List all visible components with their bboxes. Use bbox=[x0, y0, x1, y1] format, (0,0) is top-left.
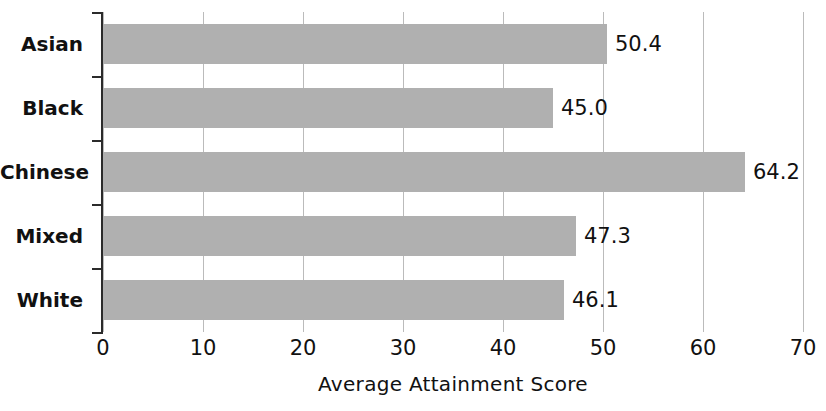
bar-white bbox=[103, 280, 564, 320]
x-tick-label-70: 70 bbox=[773, 336, 826, 360]
category-label-white: White bbox=[0, 268, 93, 332]
x-axis-labels: 0 10 20 30 40 50 60 70 bbox=[0, 336, 826, 366]
x-tick-label-0: 0 bbox=[73, 336, 133, 360]
x-tick-label-20: 20 bbox=[273, 336, 333, 360]
category-label-mixed: Mixed bbox=[0, 204, 93, 268]
bar-value-mixed: 47.3 bbox=[576, 216, 631, 256]
category-label-black: Black bbox=[0, 76, 93, 140]
bar-black bbox=[103, 88, 553, 128]
bar-row: 45.0 bbox=[103, 76, 803, 140]
gridline-70 bbox=[803, 12, 804, 332]
bar-row: 50.4 bbox=[103, 12, 803, 76]
x-axis-title: Average Attainment Score bbox=[103, 372, 803, 396]
x-tick-label-50: 50 bbox=[573, 336, 633, 360]
y-axis-tick bbox=[92, 332, 101, 334]
x-tick-label-10: 10 bbox=[173, 336, 233, 360]
x-tick-label-40: 40 bbox=[473, 336, 533, 360]
bar-row: 46.1 bbox=[103, 268, 803, 332]
y-axis-spine bbox=[101, 12, 103, 334]
bar-asian bbox=[103, 24, 607, 64]
category-label-chinese: Chinese bbox=[0, 140, 93, 204]
category-label-asian: Asian bbox=[0, 12, 93, 76]
x-tick-label-30: 30 bbox=[373, 336, 433, 360]
y-axis-labels: Asian Black Chinese Mixed White bbox=[0, 12, 93, 332]
bar-value-chinese: 64.2 bbox=[745, 152, 800, 192]
bar-chart: 50.4 45.0 64.2 47.3 46.1 Asian Black Chi… bbox=[0, 0, 826, 411]
bar-value-asian: 50.4 bbox=[607, 24, 662, 64]
y-axis-tick bbox=[92, 76, 101, 78]
y-axis-tick bbox=[92, 204, 101, 206]
bar-mixed bbox=[103, 216, 576, 256]
y-axis-tick bbox=[92, 268, 101, 270]
bar-value-black: 45.0 bbox=[553, 88, 608, 128]
x-tick-label-60: 60 bbox=[673, 336, 733, 360]
y-axis-tick bbox=[92, 12, 101, 14]
bar-row: 64.2 bbox=[103, 140, 803, 204]
bar-row: 47.3 bbox=[103, 204, 803, 268]
y-axis-tick bbox=[92, 140, 101, 142]
plot-area: 50.4 45.0 64.2 47.3 46.1 bbox=[103, 12, 803, 332]
bar-value-white: 46.1 bbox=[564, 280, 619, 320]
bar-chinese bbox=[103, 152, 745, 192]
